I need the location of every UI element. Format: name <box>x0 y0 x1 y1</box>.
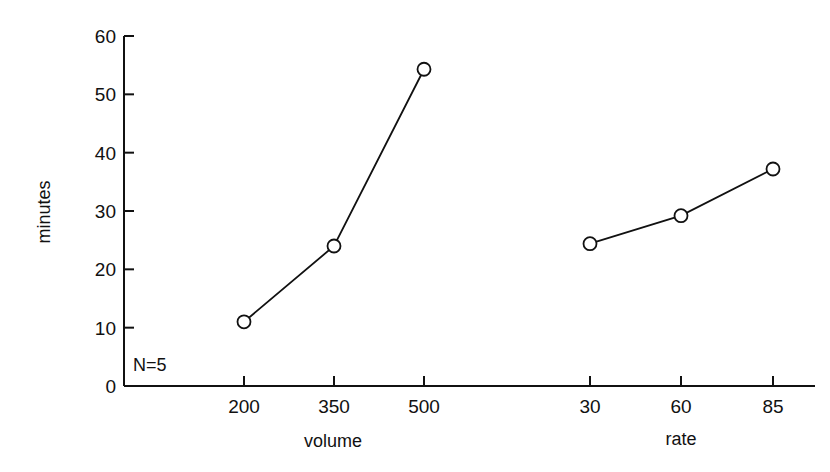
x-tick-label: 200 <box>228 396 260 417</box>
y-axis-title: minutes <box>34 180 54 243</box>
x-tick-label: 500 <box>408 396 440 417</box>
y-tick-label: 60 <box>95 26 116 47</box>
series-line-volume <box>244 69 424 322</box>
series-line-rate <box>590 169 773 244</box>
x-axis-title-volume: volume <box>304 431 362 451</box>
y-tick-label: 30 <box>95 201 116 222</box>
data-point-marker <box>238 315 251 328</box>
y-tick-label: 50 <box>95 84 116 105</box>
data-point-marker <box>767 163 780 176</box>
line-chart: 0102030405060 200350500306085 minutes N=… <box>0 0 830 472</box>
x-tick-label: 30 <box>579 396 600 417</box>
axes <box>124 36 815 386</box>
data-point-marker <box>418 63 431 76</box>
data-point-marker <box>675 209 688 222</box>
y-tick-label: 0 <box>105 376 116 397</box>
x-tick-label: 350 <box>318 396 350 417</box>
data-point-marker <box>584 237 597 250</box>
x-tick-labels: 200350500306085 <box>228 396 783 417</box>
y-tick-label: 40 <box>95 143 116 164</box>
data-series <box>238 63 780 329</box>
y-tick-label: 10 <box>95 318 116 339</box>
x-axis-title-rate: rate <box>665 429 696 449</box>
y-tick-labels: 0102030405060 <box>95 26 116 397</box>
x-tick-label: 60 <box>670 396 691 417</box>
x-tick-label: 85 <box>762 396 783 417</box>
data-point-marker <box>328 240 341 253</box>
y-tick-label: 20 <box>95 259 116 280</box>
sample-size-annotation: N=5 <box>133 355 167 375</box>
